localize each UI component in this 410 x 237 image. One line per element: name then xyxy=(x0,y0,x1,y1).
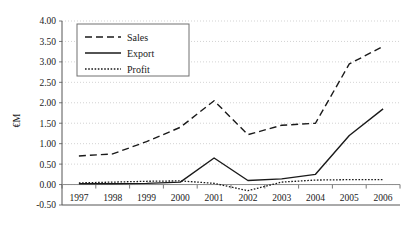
series-line-export xyxy=(79,109,383,184)
x-tick-label: 2003 xyxy=(272,193,291,203)
legend-label-export: Export xyxy=(127,48,154,59)
x-tick-label: 2002 xyxy=(238,193,257,203)
y-axis-ticks: -0.500.000.501.001.502.002.503.003.504.0… xyxy=(36,16,62,210)
y-tick-label: 4.00 xyxy=(39,16,56,26)
x-tick-label: 2001 xyxy=(205,193,224,203)
x-tick-label: 1998 xyxy=(103,193,122,203)
y-tick-label: 3.00 xyxy=(39,57,56,67)
chart-figure: €M -0.500.000.501.001.502.002.503.003.50… xyxy=(0,0,410,237)
x-tick-label: 2004 xyxy=(306,193,325,203)
line-chart-plot: -0.500.000.501.001.502.002.503.003.504.0… xyxy=(0,0,410,237)
x-tick-label: 2005 xyxy=(340,193,359,203)
legend-label-sales: Sales xyxy=(127,32,148,43)
x-tick-label: 2006 xyxy=(374,193,393,203)
y-tick-label: 0.50 xyxy=(39,160,56,170)
y-tick-label: -0.50 xyxy=(36,200,56,210)
x-tick-label: 1999 xyxy=(137,193,156,203)
x-tick-label: 1997 xyxy=(69,193,88,203)
y-tick-label: 3.50 xyxy=(39,37,56,47)
legend-label-profit: Profit xyxy=(127,64,150,75)
y-tick-label: 1.00 xyxy=(39,139,56,149)
y-tick-label: 2.00 xyxy=(39,98,56,108)
y-tick-label: 2.50 xyxy=(39,78,56,88)
chart-legend: SalesExportProfit xyxy=(77,24,189,76)
y-tick-label: 1.50 xyxy=(39,119,56,129)
y-tick-label: 0.00 xyxy=(39,180,56,190)
x-axis-ticks: 1997199819992000200120022003200420052006 xyxy=(62,185,400,203)
x-tick-label: 2000 xyxy=(171,193,190,203)
